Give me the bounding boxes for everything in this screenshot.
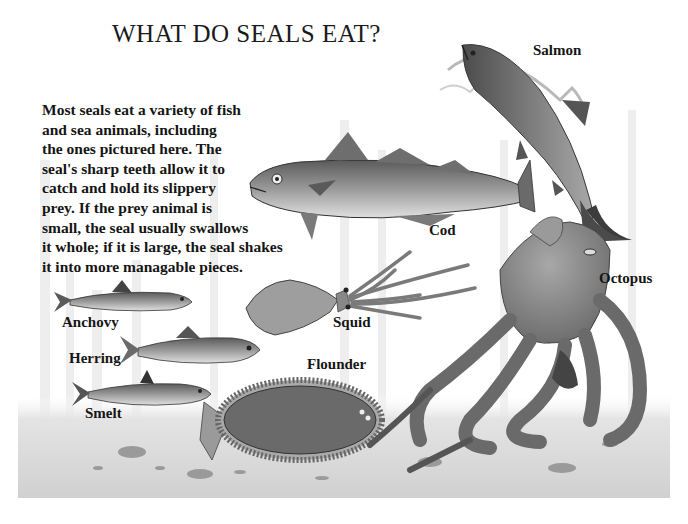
label-herring: Herring [69,350,121,367]
label-smelt: Smelt [85,405,122,422]
label-squid: Squid [333,314,371,331]
label-salmon: Salmon [533,42,581,59]
label-flounder: Flounder [307,356,366,373]
label-octopus: Octopus [599,270,652,287]
label-anchovy: Anchovy [62,314,119,331]
label-cod: Cod [429,222,456,239]
description-text: Most seals eat a variety of fish and sea… [42,100,342,276]
page-title: WHAT DO SEALS EAT? [112,20,381,48]
seal-diet-illustration: WHAT DO SEALS EAT? Most seals eat a vari… [0,0,688,524]
anchovy-drawing [54,280,192,312]
salmon-drawing [440,45,632,242]
